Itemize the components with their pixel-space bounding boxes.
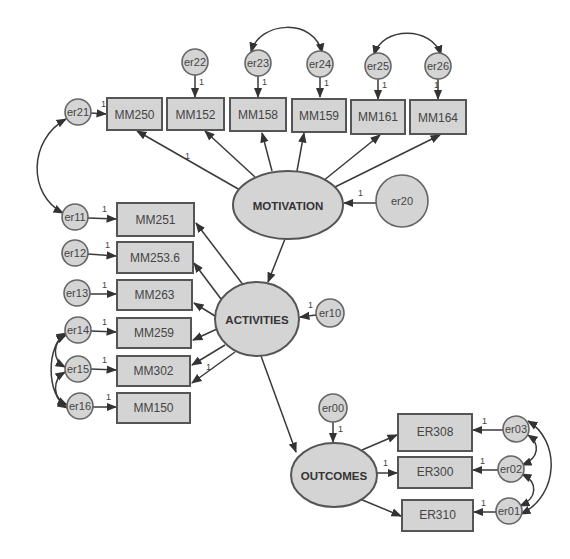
covariance-er14-er15 (55, 335, 66, 367)
svg-text:er03: er03 (505, 423, 527, 435)
error-node[interactable]: er26 (425, 53, 451, 79)
activities-indicators: MM251 MM253.6 MM263 MM259 MM302 MM150 (117, 203, 194, 423)
indicator-box[interactable]: MM159 (292, 99, 346, 132)
svg-text:1: 1 (324, 78, 329, 88)
latent-motivation[interactable]: MOTIVATION (233, 171, 343, 239)
svg-text:MM152: MM152 (175, 108, 215, 122)
svg-text:1: 1 (480, 456, 485, 466)
covariance-er25-er26 (374, 33, 441, 55)
svg-text:1: 1 (185, 151, 190, 161)
indicator-box[interactable]: MM161 (351, 100, 405, 134)
svg-text:1: 1 (199, 77, 204, 87)
svg-text:er13: er13 (66, 287, 88, 299)
error-node[interactable]: er22 (182, 49, 208, 75)
svg-text:er12: er12 (64, 247, 86, 259)
error-node[interactable]: er15 (65, 356, 91, 382)
indicator-box[interactable]: MM250 (107, 98, 162, 130)
indicator-box[interactable]: ER310 (402, 500, 473, 531)
indicator-box[interactable]: MM158 (230, 98, 286, 131)
svg-text:1: 1 (382, 80, 387, 90)
latent-activities[interactable]: ACTIVITIES (215, 282, 299, 356)
svg-text:MM164: MM164 (418, 111, 458, 125)
svg-text:MM159: MM159 (299, 109, 339, 123)
error-node[interactable]: er25 (365, 53, 391, 79)
svg-text:er24: er24 (309, 58, 331, 70)
svg-text:er11: er11 (64, 211, 85, 223)
error-node[interactable]: er23 (245, 50, 271, 76)
error-node[interactable]: er01 (496, 498, 522, 524)
indicator-box[interactable]: MM263 (117, 280, 192, 310)
covariance-er23-er24 (251, 27, 322, 53)
covariance-er21-er11 (37, 119, 66, 213)
svg-text:er21: er21 (67, 106, 89, 118)
svg-text:1: 1 (102, 280, 107, 290)
svg-text:1: 1 (482, 416, 487, 426)
error-node[interactable]: er14 (65, 317, 91, 343)
activities-errors: er11 er12 er13 er14 er15 er16 (62, 204, 93, 419)
svg-text:1: 1 (358, 188, 363, 198)
svg-text:1: 1 (434, 80, 439, 90)
error-node[interactable]: er13 (64, 280, 90, 306)
svg-text:1: 1 (106, 392, 111, 402)
error-node[interactable]: er03 (503, 416, 529, 442)
svg-text:MM251: MM251 (135, 213, 175, 227)
svg-text:MM259: MM259 (134, 326, 174, 340)
svg-text:MM302: MM302 (133, 364, 173, 378)
svg-text:1: 1 (308, 300, 313, 310)
indicator-box[interactable]: MM302 (117, 356, 190, 386)
disturbance-er00[interactable]: er00 (319, 394, 347, 422)
path-motivation-activities (268, 239, 285, 282)
svg-text:er02: er02 (500, 463, 522, 475)
svg-text:MM161: MM161 (358, 110, 398, 124)
svg-text:er14: er14 (67, 324, 89, 336)
indicator-box[interactable]: MM251 (117, 203, 194, 236)
svg-text:er25: er25 (367, 60, 389, 72)
svg-text:er01: er01 (498, 505, 520, 517)
svg-text:er16: er16 (69, 400, 91, 412)
indicator-box[interactable]: ER300 (398, 457, 472, 488)
outcomes-indicators: ER308 ER300 ER310 (398, 414, 473, 531)
error-node[interactable]: er24 (307, 51, 333, 77)
error-node[interactable]: er16 (67, 393, 93, 419)
svg-text:1: 1 (102, 204, 107, 214)
svg-text:MM263: MM263 (134, 288, 174, 302)
svg-text:MOTIVATION: MOTIVATION (253, 200, 323, 212)
svg-text:MM158: MM158 (238, 108, 278, 122)
svg-text:1: 1 (102, 355, 107, 365)
svg-text:1: 1 (383, 458, 388, 468)
sem-diagram: 1 1 1 1 1 1 1 1 1 1 1 1 1 1 1 1 1 1 1 1 … (0, 0, 570, 559)
svg-text:ACTIVITIES: ACTIVITIES (225, 314, 289, 326)
svg-text:ER300: ER300 (417, 465, 454, 479)
svg-text:1: 1 (206, 362, 211, 372)
error-node[interactable]: er21 (65, 99, 91, 125)
indicator-box[interactable]: ER308 (398, 414, 472, 451)
svg-text:er10: er10 (319, 307, 341, 319)
error-node[interactable]: er12 (62, 240, 88, 266)
svg-text:ER310: ER310 (419, 508, 456, 522)
indicator-box[interactable]: MM152 (167, 98, 224, 130)
svg-text:er22: er22 (184, 56, 206, 68)
indicator-box[interactable]: MM164 (410, 100, 466, 134)
svg-text:ER308: ER308 (417, 425, 454, 439)
error-node[interactable]: er11 (62, 204, 88, 230)
svg-text:er15: er15 (67, 363, 89, 375)
error-node[interactable]: er02 (498, 456, 524, 482)
svg-text:MM150: MM150 (133, 401, 173, 415)
path-activities-outcomes (261, 356, 296, 452)
svg-text:1: 1 (102, 317, 107, 327)
svg-text:er23: er23 (247, 57, 269, 69)
latent-outcomes[interactable]: OUTCOMES (291, 443, 377, 507)
indicator-box[interactable]: MM150 (117, 393, 190, 423)
svg-text:1: 1 (105, 240, 110, 250)
covariance-er15-er16 (55, 372, 67, 405)
indicator-box[interactable]: MM259 (117, 318, 191, 348)
disturbance-er10[interactable]: er10 (316, 299, 344, 327)
svg-text:er00: er00 (322, 402, 344, 414)
disturbance-er20[interactable]: er20 (376, 175, 428, 227)
svg-text:er26: er26 (427, 60, 449, 72)
svg-text:OUTCOMES: OUTCOMES (301, 470, 368, 482)
outcomes-errors: er03 er02 er01 (496, 416, 529, 524)
covariance-er02-er01 (520, 474, 534, 506)
svg-text:1: 1 (338, 424, 343, 434)
indicator-box[interactable]: MM253.6 (117, 242, 193, 273)
